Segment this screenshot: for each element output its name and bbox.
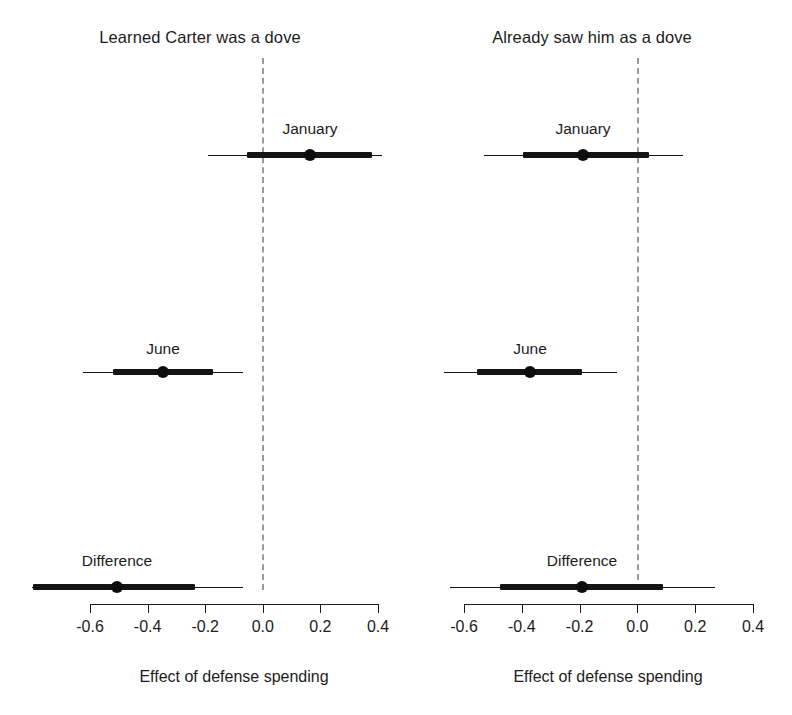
x-axis-tick <box>378 604 379 613</box>
x-axis-tick-label: -0.2 <box>566 618 594 636</box>
x-axis-tick-label: -0.4 <box>508 618 536 636</box>
x-axis-tick <box>90 604 91 613</box>
x-axis-tick-label: -0.6 <box>450 618 478 636</box>
x-axis-title: Effect of defense spending <box>513 668 702 686</box>
point-estimate-marker <box>577 149 589 161</box>
row-label-june: June <box>513 340 547 358</box>
x-axis-line <box>90 604 378 605</box>
x-axis-tick <box>580 604 581 613</box>
row-label-january: January <box>555 120 610 138</box>
x-axis-tick <box>148 604 149 613</box>
x-axis-tick-label: 0.2 <box>684 618 706 636</box>
x-axis-tick <box>522 604 523 613</box>
x-axis-tick-label: 0.4 <box>367 618 389 636</box>
x-axis-tick-label: 0.2 <box>309 618 331 636</box>
x-axis-tick-label: 0.4 <box>742 618 764 636</box>
row-label-difference: Difference <box>82 552 152 570</box>
x-axis-tick <box>753 604 754 613</box>
row-label-difference: Difference <box>547 552 617 570</box>
x-axis-line <box>464 604 753 605</box>
x-axis-tick-label: 0.0 <box>626 618 648 636</box>
panel-already-saw-him-as-a-dove: Already saw him as a dove <box>392 0 792 715</box>
x-axis-tick-label: 0.0 <box>252 618 274 636</box>
panel-title-right: Already saw him as a dove <box>392 28 792 47</box>
row-label-january: January <box>282 120 337 138</box>
panel-title-left: Learned Carter was a dove <box>0 28 400 47</box>
x-axis-tick <box>263 604 264 613</box>
x-axis-tick <box>464 604 465 613</box>
x-axis-tick <box>695 604 696 613</box>
point-estimate-marker <box>304 149 316 161</box>
zero-reference-line-left <box>262 58 264 590</box>
x-axis-tick-label: -0.6 <box>76 618 104 636</box>
panel-learned-carter-was-a-dove: Learned Carter was a dove <box>0 0 400 715</box>
coefficient-plot-figure: Learned Carter was a dove Already saw hi… <box>0 0 792 715</box>
point-estimate-marker <box>111 581 123 593</box>
x-axis-title: Effect of defense spending <box>139 668 328 686</box>
row-label-june: June <box>146 340 180 358</box>
zero-reference-line-right <box>637 58 639 590</box>
x-axis-tick <box>320 604 321 613</box>
point-estimate-marker <box>576 581 588 593</box>
x-axis-tick-label: -0.2 <box>191 618 219 636</box>
point-estimate-marker <box>157 366 169 378</box>
x-axis-tick-label: -0.4 <box>134 618 162 636</box>
x-axis-tick <box>637 604 638 613</box>
x-axis-tick <box>205 604 206 613</box>
point-estimate-marker <box>524 366 536 378</box>
